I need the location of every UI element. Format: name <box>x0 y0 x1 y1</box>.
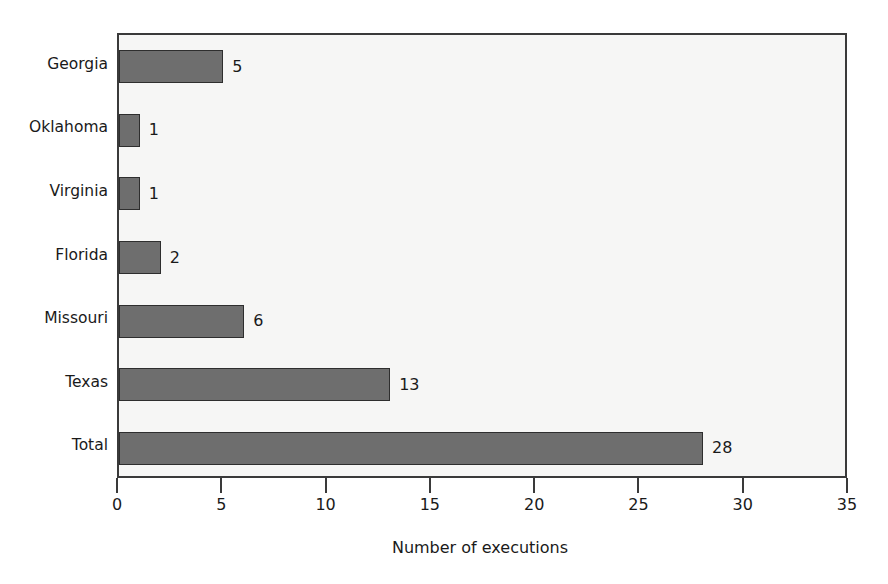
x-axis-tick-mark <box>846 478 848 493</box>
bar[interactable] <box>119 177 140 210</box>
x-axis-tick-label: 35 <box>837 497 857 513</box>
y-axis-tick-label: Total <box>0 438 108 454</box>
bar-value-label: 1 <box>149 186 159 202</box>
y-axis-tick-label: Virginia <box>0 184 108 200</box>
bar[interactable] <box>119 114 140 147</box>
x-axis-tick-mark <box>637 478 639 493</box>
bar-band: 13 <box>119 368 845 401</box>
y-axis-tick-label: Oklahoma <box>0 121 108 137</box>
x-axis-tick-mark <box>533 478 535 493</box>
bar[interactable] <box>119 50 223 83</box>
bar-band: 2 <box>119 241 845 274</box>
x-axis-tick-mark <box>429 478 431 493</box>
bar-value-label: 2 <box>170 250 180 266</box>
bar-value-label: 13 <box>399 377 419 393</box>
y-axis-tick-label: Missouri <box>0 311 108 327</box>
bar-band: 28 <box>119 432 845 465</box>
bar-band: 6 <box>119 305 845 338</box>
x-axis-title: Number of executions <box>0 538 888 557</box>
y-axis-tick-label: Georgia <box>0 57 108 73</box>
bar[interactable] <box>119 241 161 274</box>
plot-area: 511261328 <box>117 33 847 478</box>
bar-value-label: 1 <box>149 122 159 138</box>
bar-band: 1 <box>119 114 845 147</box>
bar-value-label: 6 <box>253 313 263 329</box>
x-axis-tick-label: 25 <box>628 497 648 513</box>
bars-layer: 511261328 <box>119 35 845 476</box>
x-axis-tick-label: 20 <box>524 497 544 513</box>
x-axis-tick-mark <box>116 478 118 493</box>
bar[interactable] <box>119 368 390 401</box>
x-axis-tick-label: 30 <box>733 497 753 513</box>
x-axis-tick-label: 15 <box>420 497 440 513</box>
x-axis-tick-label: 5 <box>216 497 226 513</box>
bar[interactable] <box>119 305 244 338</box>
y-axis-tick-label: Florida <box>0 248 108 264</box>
x-axis-tick-mark <box>220 478 222 493</box>
bar-value-label: 5 <box>232 59 242 75</box>
x-axis-tick-label: 10 <box>315 497 335 513</box>
bar[interactable] <box>119 432 703 465</box>
bar-value-label: 28 <box>712 440 732 456</box>
bar-chart: GeorgiaOklahomaVirginiaFloridaMissouriTe… <box>0 0 888 584</box>
x-axis-tick-mark <box>742 478 744 493</box>
x-axis-tick-label: 0 <box>112 497 122 513</box>
x-axis-title-text: Number of executions <box>392 538 568 557</box>
bar-band: 1 <box>119 177 845 210</box>
y-axis-labels: GeorgiaOklahomaVirginiaFloridaMissouriTe… <box>0 33 108 478</box>
y-axis-tick-label: Texas <box>0 375 108 391</box>
bar-band: 5 <box>119 50 845 83</box>
x-axis-tick-mark <box>325 478 327 493</box>
x-axis: 05101520253035 <box>117 478 847 538</box>
